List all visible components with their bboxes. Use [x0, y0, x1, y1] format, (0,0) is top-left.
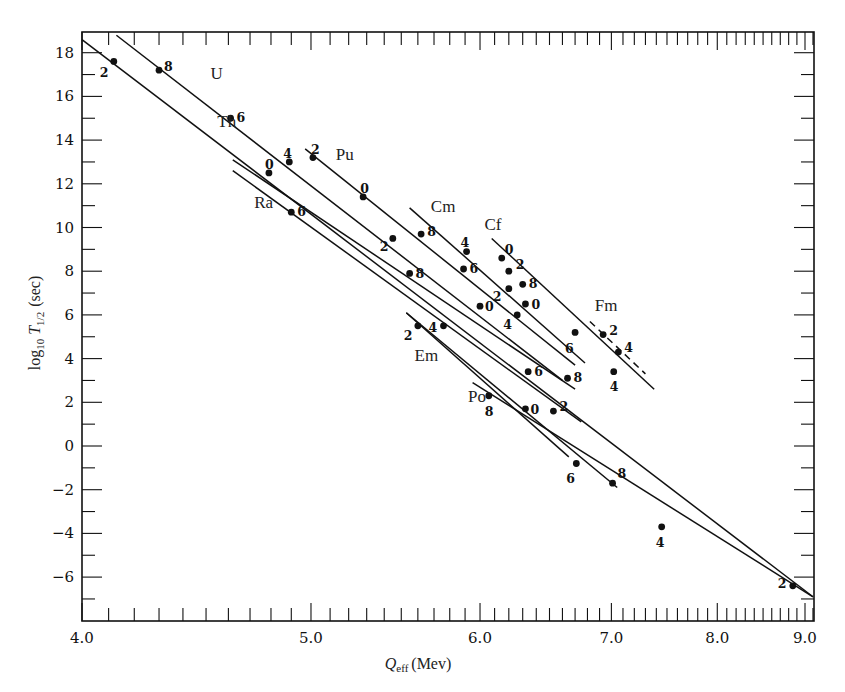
- point-label: 0: [530, 402, 539, 417]
- point-label: 6: [566, 471, 575, 486]
- y-tick-label: −2: [52, 481, 74, 499]
- data-point: [564, 375, 571, 382]
- series-th: 20642: [82, 40, 813, 597]
- point-label: 8: [164, 59, 173, 74]
- trend-line: [305, 149, 575, 365]
- point-label: 0: [360, 181, 369, 196]
- point-label: 6: [565, 341, 574, 356]
- series-lines: 20642864266028820864420028642424088: [82, 35, 813, 597]
- y-tick-label: 12: [55, 175, 74, 193]
- y-tick-label: 2: [64, 393, 74, 411]
- data-point: [460, 266, 467, 273]
- series-labels: ThURaPuCmCfFmEmPo: [211, 64, 618, 406]
- series-em-2: [406, 313, 617, 488]
- data-point: [519, 281, 526, 288]
- data-point: [389, 235, 396, 242]
- alpha-decay-chart: 4.05.06.07.08.09.0 181614121086420−2−4−6…: [0, 0, 845, 692]
- data-point: [288, 209, 295, 216]
- point-label: 4: [656, 535, 665, 550]
- point-label: 2: [516, 257, 525, 272]
- point-label: 2: [404, 328, 413, 343]
- series-po: 8: [473, 383, 813, 597]
- trend-line: [82, 40, 813, 597]
- x-tick-label: 6.0: [468, 629, 492, 647]
- data-point: [525, 368, 532, 375]
- y-tick-label: 16: [55, 87, 74, 105]
- x-tick-label: 4.0: [70, 629, 94, 647]
- series-label-cf: Cf: [484, 215, 501, 234]
- series-label-em: Em: [415, 346, 439, 365]
- point-label: 0: [505, 242, 514, 257]
- data-point: [658, 523, 665, 530]
- series-label-u: U: [211, 64, 223, 83]
- point-label: 4: [624, 340, 633, 355]
- series-fm: 24: [590, 321, 646, 373]
- data-point: [505, 285, 512, 292]
- y-tick-label: −6: [52, 568, 74, 586]
- point-label: 4: [283, 146, 292, 161]
- x-tick-label: 8.0: [705, 629, 729, 647]
- point-label: 2: [559, 399, 568, 414]
- y-tick-label: −4: [52, 524, 74, 542]
- point-label: 4: [503, 317, 512, 332]
- data-point: [485, 392, 492, 399]
- point-label: 4: [461, 235, 470, 250]
- y-tick-label: 0: [64, 437, 74, 455]
- data-point: [550, 408, 557, 415]
- x-tick-label: 9.0: [793, 629, 817, 647]
- point-label: 8: [529, 276, 538, 291]
- trend-line: [233, 171, 582, 422]
- series-ra: 602: [233, 171, 582, 422]
- point-label: 6: [534, 364, 543, 379]
- y-tick-label: 6: [64, 306, 74, 324]
- x-axis-title: Qeff(Mev): [385, 655, 452, 674]
- point-label: 2: [100, 65, 109, 80]
- data-point: [156, 67, 163, 74]
- y-tick-label: 8: [64, 262, 74, 280]
- trend-line: [406, 313, 617, 488]
- point-label: 8: [416, 266, 425, 281]
- data-point: [418, 231, 425, 238]
- data-point: [610, 368, 617, 375]
- y-tick-label: 14: [55, 131, 74, 149]
- point-label: 0: [531, 297, 540, 312]
- y-tick-label: 10: [55, 219, 74, 237]
- data-point: [110, 58, 117, 65]
- series-label-po: Po: [468, 387, 486, 406]
- point-label: 4: [610, 379, 619, 394]
- x-axis-ticks: 4.05.06.07.08.09.0: [70, 32, 817, 647]
- series-u: 86426: [116, 35, 562, 380]
- y-tick-label: 4: [64, 350, 74, 368]
- data-point: [406, 270, 413, 277]
- data-point: [600, 331, 607, 338]
- data-point: [477, 303, 484, 310]
- series-label-ra: Ra: [254, 193, 273, 212]
- series-label-th: Th: [217, 112, 236, 131]
- point-label: 0: [265, 157, 274, 172]
- trend-line: [116, 35, 562, 380]
- point-label: 2: [493, 289, 502, 304]
- data-point: [440, 322, 447, 329]
- series-pu: 20864: [305, 142, 575, 366]
- x-tick-label: 7.0: [599, 629, 623, 647]
- point-label: 8: [574, 370, 583, 385]
- series-label-pu: Pu: [336, 145, 354, 164]
- data-point: [505, 268, 512, 275]
- data-point: [572, 329, 579, 336]
- trend-line: [473, 383, 813, 597]
- data-point: [573, 460, 580, 467]
- point-label: 8: [485, 404, 494, 419]
- data-point: [514, 312, 521, 319]
- data-point: [522, 301, 529, 308]
- trend-line: [233, 160, 575, 389]
- y-axis-title: log10T1/2(sec): [26, 276, 46, 371]
- point-label: 6: [237, 110, 246, 125]
- point-label: 2: [311, 142, 320, 157]
- y-tick-label: 18: [55, 44, 74, 62]
- series-label-fm: Fm: [595, 296, 618, 315]
- series-label-cm: Cm: [431, 197, 456, 216]
- data-point: [615, 349, 622, 356]
- x-tick-label: 5.0: [299, 629, 323, 647]
- point-label: 2: [609, 323, 618, 338]
- point-label: 2: [380, 239, 389, 254]
